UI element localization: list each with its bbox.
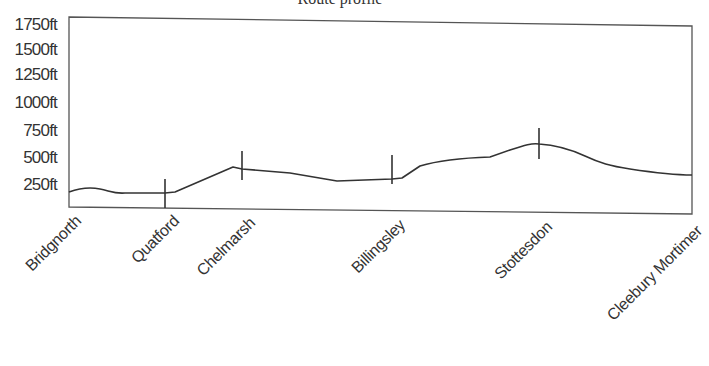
y-axis-labels: 1750ft 1500ft 1250ft 1000ft 750ft 500ft … (15, 15, 59, 194)
chart-title: Route profile (298, 0, 383, 8)
y-label-1750: 1750ft (15, 15, 59, 34)
x-axis-labels: Bridgnorth Quatford Chelmarsh Billingsle… (22, 212, 706, 323)
x-label-billingsley: Billingsley (348, 216, 408, 276)
waypoint-ticks (165, 128, 539, 208)
y-label-1250: 1250ft (15, 65, 59, 84)
y-label-750: 750ft (23, 121, 58, 140)
x-label-bridgnorth: Bridgnorth (22, 212, 84, 274)
y-label-1500: 1500ft (15, 40, 59, 59)
y-label-500: 500ft (23, 148, 58, 167)
y-label-250: 250ft (23, 175, 58, 194)
elevation-profile-chart: Route profile 1750ft 1500ft 1250ft 1000f… (0, 0, 709, 366)
chart-title-text: Route profile (298, 0, 383, 8)
plot-frame (69, 17, 692, 214)
x-label-quatford: Quatford (128, 212, 182, 266)
x-label-stottesdon: Stottesdon (491, 218, 555, 282)
x-label-cleebury-mortimer: Cleebury Mortimer (604, 221, 706, 323)
elevation-line (69, 144, 692, 193)
y-label-1000: 1000ft (15, 93, 59, 112)
x-label-chelmarsh: Chelmarsh (193, 214, 258, 279)
